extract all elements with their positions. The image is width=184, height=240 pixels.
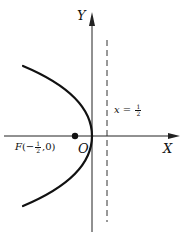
focus-label: F(− 1 2 ,0) <box>15 141 56 154</box>
focus-point <box>72 133 78 139</box>
y-axis-arrow-icon <box>89 12 95 26</box>
directrix-label-eq: = <box>123 104 131 115</box>
focus-label-sign: − <box>26 141 34 152</box>
focus-fraction: 1 2 <box>35 141 41 154</box>
parabola-diagram <box>0 0 184 240</box>
directrix-fraction: 1 2 <box>135 104 141 117</box>
y-axis-label: Y <box>77 9 86 22</box>
focus-fraction-den: 2 <box>35 148 41 154</box>
x-axis-label: X <box>163 142 172 155</box>
x-axis-arrow-icon <box>168 133 180 139</box>
directrix-label-var: x <box>114 104 120 115</box>
directrix-label: x = 1 2 <box>114 104 142 117</box>
origin-label: O <box>78 142 89 155</box>
focus-label-name: F <box>15 141 22 152</box>
directrix-fraction-den: 2 <box>135 111 141 117</box>
focus-label-rest: ,0) <box>42 141 55 152</box>
